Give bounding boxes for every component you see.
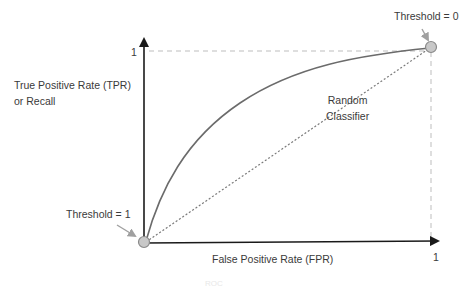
threshold-1-label: Threshold = 1 — [66, 206, 131, 222]
y-axis-label: True Positive Rate (TPR) or Recall — [14, 77, 131, 109]
y-axis-label-line1: True Positive Rate (TPR) — [14, 77, 131, 93]
threshold-0-label: Threshold = 0 — [394, 8, 459, 24]
random-classifier-label-line1: Random — [326, 92, 369, 108]
faint-caption: ROC — [205, 276, 223, 290]
threshold-1-arrow-icon — [117, 225, 135, 236]
random-classifier-label: Random Classifier — [326, 92, 369, 124]
random-classifier-label-line2: Classifier — [326, 108, 369, 124]
x-axis-label: False Positive Rate (FPR) — [212, 251, 333, 267]
x-axis — [144, 241, 437, 243]
y-axis-tick-1: 1 — [131, 44, 137, 60]
threshold-0-point — [426, 42, 437, 53]
x-axis-tick-1: 1 — [433, 249, 439, 265]
y-axis-label-line2: or Recall — [14, 93, 131, 109]
threshold-1-point — [139, 237, 150, 248]
threshold-0-arrow-icon — [422, 29, 428, 40]
